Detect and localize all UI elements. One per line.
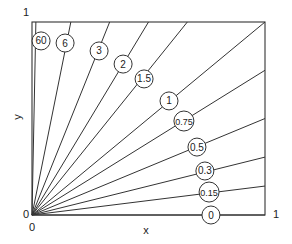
x-tick-max: 1 xyxy=(273,208,279,220)
slope-label-3: 3 xyxy=(90,42,108,60)
slope-label-1: 1 xyxy=(160,92,178,110)
y-tick-min: 0 xyxy=(23,208,29,220)
slope-label-1_5: 1.5 xyxy=(135,70,153,88)
svg-text:0.5: 0.5 xyxy=(190,142,204,153)
y-axis-label: y xyxy=(11,114,23,120)
slope-label-60: 60 xyxy=(32,32,50,50)
slope-label-0_75: 0.75 xyxy=(174,111,194,131)
svg-text:0.15: 0.15 xyxy=(200,188,218,198)
svg-text:0.3: 0.3 xyxy=(198,165,212,176)
y-tick-max: 1 xyxy=(23,6,29,18)
svg-text:60: 60 xyxy=(36,35,48,46)
slope-line-1_5 xyxy=(32,22,187,215)
svg-text:1: 1 xyxy=(166,95,172,106)
svg-text:0.75: 0.75 xyxy=(175,117,193,127)
svg-text:6: 6 xyxy=(62,38,68,49)
x-tick-min: 0 xyxy=(29,221,35,233)
svg-text:0: 0 xyxy=(208,210,214,221)
slope-lines-chart: 606321.510.750.50.30.150 1 0 0 1 x y xyxy=(0,0,292,244)
slope-line-0_75 xyxy=(32,70,265,215)
slope-line-60 xyxy=(32,22,36,215)
svg-text:2: 2 xyxy=(120,59,126,70)
svg-text:3: 3 xyxy=(96,45,102,56)
slope-label-0_15: 0.15 xyxy=(199,182,219,202)
slope-label-6: 6 xyxy=(56,34,74,52)
svg-text:1.5: 1.5 xyxy=(137,73,151,84)
slope-label-0_3: 0.3 xyxy=(196,162,214,180)
slope-label-0: 0 xyxy=(202,206,220,224)
x-axis-label: x xyxy=(143,224,149,236)
slope-label-0_5: 0.5 xyxy=(188,138,206,156)
slope-label-2: 2 xyxy=(114,55,132,73)
